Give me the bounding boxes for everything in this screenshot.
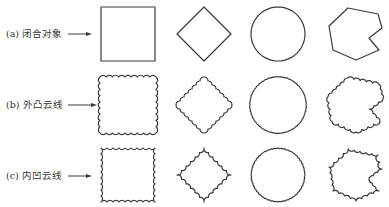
arrow-b bbox=[68, 103, 97, 107]
square-convex-cloud bbox=[98, 75, 158, 135]
diamond-concave-cloud bbox=[177, 148, 231, 202]
row-a-closed-objects bbox=[101, 7, 382, 61]
irregular-polygon-plain bbox=[329, 8, 382, 60]
square-concave-cloud bbox=[101, 148, 155, 202]
irregular-polygon-convex-cloud bbox=[327, 77, 384, 133]
diamond-convex-cloud bbox=[176, 77, 232, 133]
circle-plain bbox=[251, 7, 305, 61]
square-plain bbox=[101, 7, 155, 61]
diamond-plain bbox=[177, 7, 231, 61]
arrow-c bbox=[68, 174, 92, 178]
irregular-polygon-concave-cloud bbox=[329, 149, 382, 201]
circle-convex-cloud bbox=[250, 77, 307, 134]
figure-canvas bbox=[0, 0, 389, 207]
arrow-a bbox=[68, 32, 92, 36]
row-c-concave-clouds bbox=[101, 148, 382, 202]
row-b-convex-clouds bbox=[98, 75, 383, 135]
arrows bbox=[68, 32, 97, 178]
circle-concave-cloud bbox=[251, 148, 305, 202]
